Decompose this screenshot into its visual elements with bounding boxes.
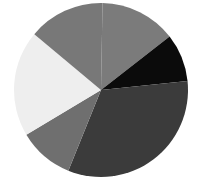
pie-chart-canvas [0,0,198,185]
pie-chart [0,0,198,185]
